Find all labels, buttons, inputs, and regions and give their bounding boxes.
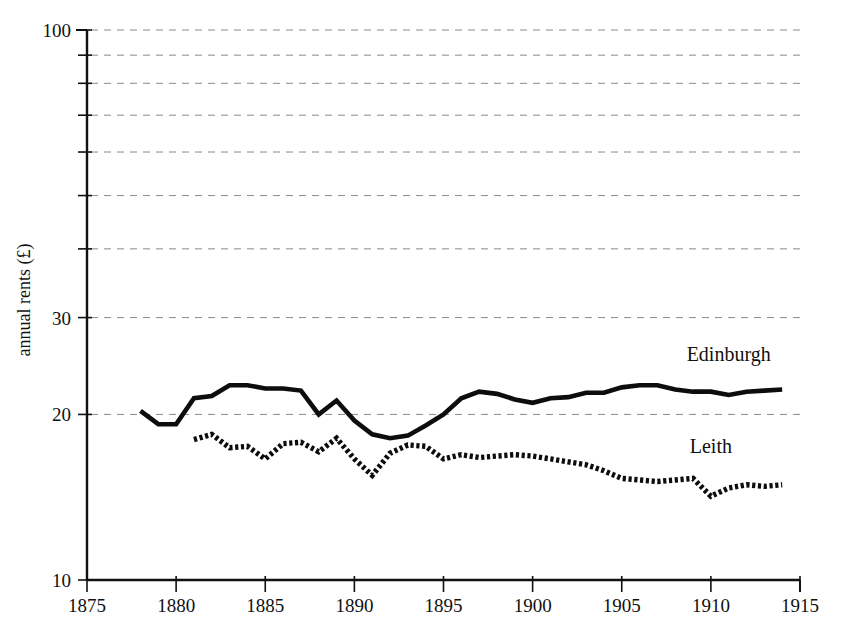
x-ticks-group [87, 576, 800, 592]
axes-group [76, 30, 800, 592]
x-tick-label-1890: 1890 [335, 595, 373, 616]
x-tick-label-1875: 1875 [68, 595, 106, 616]
x-tick-label-1885: 1885 [246, 595, 284, 616]
chart-figure: 100302010 187518801885189018951900190519… [0, 0, 845, 638]
y-tick-label-30: 30 [52, 308, 71, 329]
x-tick-label-1915: 1915 [781, 595, 819, 616]
series-label-leith: Leith [690, 435, 732, 457]
y-axis-title-text: annual rents (£) [14, 244, 35, 357]
y-tick-labels-group: 100302010 [43, 20, 72, 591]
line-chart: 100302010 187518801885189018951900190519… [0, 0, 845, 638]
x-tick-label-1905: 1905 [603, 595, 641, 616]
y-tick-label-20: 20 [52, 404, 71, 425]
series-label-edinburgh: Edinburgh [687, 343, 771, 366]
series-line-edinburgh [140, 385, 782, 438]
y-ticks-group [78, 30, 92, 580]
x-tick-label-1895: 1895 [425, 595, 463, 616]
y-axis-title: annual rents (£) [14, 244, 35, 357]
series-annotations-group: EdinburghLeith [687, 343, 771, 457]
y-tick-label-10: 10 [52, 570, 71, 591]
y-tick-label-100: 100 [43, 20, 72, 41]
x-tick-label-1900: 1900 [514, 595, 552, 616]
x-tick-labels-group: 187518801885189018951900190519101915 [68, 595, 819, 616]
x-tick-label-1880: 1880 [157, 595, 195, 616]
x-tick-label-1910: 1910 [692, 595, 730, 616]
data-series-group [140, 385, 782, 496]
